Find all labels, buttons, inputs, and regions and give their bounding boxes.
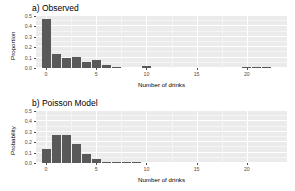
y-tick-label: 0.2	[25, 44, 32, 50]
gridline-vertical-minor	[172, 16, 173, 68]
gridline-vertical-major	[96, 111, 97, 163]
gridline-horizontal-major	[36, 25, 287, 26]
panel-title-poisson: b) Poisson Model	[32, 98, 98, 109]
x-tick-mark	[247, 163, 248, 165]
y-tick-label: 0.3	[25, 34, 32, 40]
bar	[122, 162, 131, 163]
x-tick-mark	[197, 68, 198, 70]
gridline-horizontal-major	[36, 15, 287, 16]
bar	[72, 144, 81, 163]
x-tick-label: 0	[45, 166, 48, 172]
y-tick-mark	[34, 142, 36, 143]
bar	[82, 154, 91, 163]
gridline-vertical-minor	[222, 111, 223, 163]
x-axis-title-poisson: Number of drinks	[36, 176, 287, 183]
y-tick-label: 0.0	[25, 160, 32, 166]
y-tick-label: 0.4	[25, 23, 32, 29]
y-tick-label: 0.5	[25, 108, 32, 114]
y-tick-mark	[34, 163, 36, 164]
x-tick-label: 10	[144, 166, 150, 172]
x-tick-mark	[247, 68, 248, 70]
gridline-horizontal-minor	[36, 41, 287, 42]
gridline-horizontal-minor	[36, 51, 287, 52]
x-tick-label: 0	[45, 71, 48, 77]
gridline-horizontal-minor	[36, 20, 287, 21]
bar	[262, 67, 271, 68]
y-tick-label: 0.1	[25, 55, 32, 61]
x-tick-label: 20	[244, 71, 250, 77]
gridline-horizontal-major	[36, 36, 287, 37]
figure-two-panel-drinks: a) Observed Proportion Number of drinks …	[0, 0, 295, 191]
bar	[252, 67, 261, 68]
x-axis-title-observed: Number of drinks	[36, 81, 287, 88]
bar	[52, 54, 61, 68]
y-tick-label: 0.0	[25, 65, 32, 71]
y-tick-mark	[34, 26, 36, 27]
bar	[92, 60, 101, 68]
gridline-horizontal-major	[36, 46, 287, 47]
panel-title-observed: a) Observed	[32, 3, 79, 14]
y-tick-label: 0.3	[25, 129, 32, 135]
x-tick-label: 5	[95, 71, 98, 77]
y-axis-title-observed: Proportion	[9, 31, 16, 60]
gridline-vertical-minor	[121, 111, 122, 163]
y-tick-mark	[34, 47, 36, 48]
gridline-vertical-minor	[121, 16, 122, 68]
gridline-vertical-major	[146, 16, 147, 68]
x-tick-mark	[46, 163, 47, 165]
gridline-horizontal-major	[36, 120, 287, 121]
gridline-horizontal-minor	[36, 136, 287, 137]
gridline-horizontal-minor	[36, 126, 287, 127]
x-tick-label: 15	[194, 71, 200, 77]
gridline-vertical-minor	[222, 16, 223, 68]
gridline-horizontal-minor	[36, 31, 287, 32]
bar	[112, 162, 121, 163]
y-tick-mark	[34, 132, 36, 133]
bar	[72, 57, 81, 68]
gridline-vertical-major	[197, 16, 198, 68]
y-tick-mark	[34, 37, 36, 38]
x-tick-mark	[46, 68, 47, 70]
y-tick-mark	[34, 68, 36, 69]
bar	[42, 19, 51, 68]
y-tick-mark	[34, 16, 36, 17]
gridline-horizontal-major	[36, 141, 287, 142]
x-tick-mark	[197, 163, 198, 165]
gridline-horizontal-major	[36, 131, 287, 132]
y-tick-label: 0.2	[25, 139, 32, 145]
bar	[62, 58, 71, 68]
gridline-vertical-major	[197, 111, 198, 163]
bar	[102, 162, 111, 163]
x-tick-mark	[96, 163, 97, 165]
x-tick-label: 20	[244, 166, 250, 172]
bar	[82, 62, 91, 68]
x-tick-mark	[146, 68, 147, 70]
gridline-vertical-major	[146, 111, 147, 163]
bar	[132, 162, 141, 163]
x-tick-label: 15	[194, 166, 200, 172]
gridline-vertical-major	[247, 111, 248, 163]
y-tick-label: 0.1	[25, 150, 32, 156]
x-tick-mark	[146, 163, 147, 165]
plot-area-observed	[36, 16, 287, 68]
bar	[102, 65, 111, 68]
bar	[42, 149, 51, 163]
x-tick-mark	[96, 68, 97, 70]
x-tick-label: 10	[144, 71, 150, 77]
bar	[62, 135, 71, 163]
bar	[52, 135, 61, 163]
y-tick-label: 0.4	[25, 118, 32, 124]
y-axis-title-poisson: Probability	[9, 126, 16, 155]
panel-poisson: b) Poisson Model Probability Number of d…	[0, 95, 295, 190]
x-tick-label: 5	[95, 166, 98, 172]
gridline-vertical-minor	[172, 111, 173, 163]
gridline-horizontal-minor	[36, 115, 287, 116]
y-tick-mark	[34, 111, 36, 112]
bar	[112, 67, 121, 68]
y-tick-label: 0.5	[25, 13, 32, 19]
gridline-vertical-major	[247, 16, 248, 68]
y-tick-mark	[34, 153, 36, 154]
plot-area-poisson	[36, 111, 287, 163]
panel-observed: a) Observed Proportion Number of drinks …	[0, 0, 295, 95]
y-tick-mark	[34, 121, 36, 122]
